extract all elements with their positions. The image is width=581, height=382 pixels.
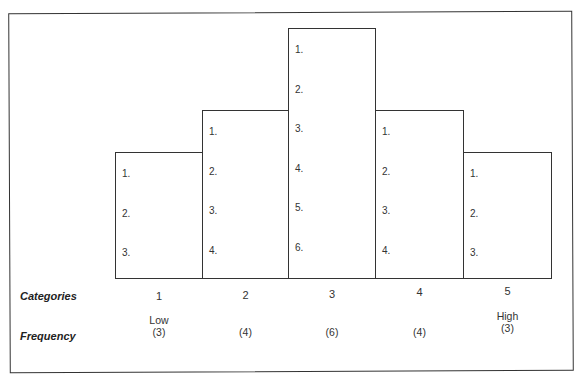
frequency-label: (4) <box>216 326 276 338</box>
category-label: 5 <box>478 285 538 297</box>
bar-category-3: 1.2.3.4.5.6. <box>288 28 376 279</box>
bar-item-label: 2. <box>209 166 217 177</box>
frequency-value: (3) <box>478 322 538 334</box>
category-label: 1 <box>129 290 189 302</box>
frequency-row-label: Frequency <box>20 330 76 342</box>
categories-row-label: Categories <box>20 290 77 302</box>
bar-item-label: 2. <box>295 84 303 95</box>
frequency-value: (4) <box>216 326 276 338</box>
frequency-value: (6) <box>302 326 362 338</box>
bar-item-label: 1. <box>470 168 478 179</box>
bar-item-label: 1. <box>295 44 303 55</box>
bar-category-4: 1.2.3.4. <box>375 110 464 279</box>
bar-item-label: 4. <box>382 245 390 256</box>
bar-item-label: 3. <box>295 123 303 134</box>
bar-item-label: 2. <box>122 208 130 219</box>
frequency-label: (6) <box>302 326 362 338</box>
bar-item-label: 1. <box>122 168 130 179</box>
bar-item-label: 4. <box>209 245 217 256</box>
category-label: 3 <box>302 288 362 300</box>
bar-category-1: 1.2.3. <box>115 152 203 279</box>
bar-item-label: 3. <box>470 247 478 258</box>
bar-item-label: 2. <box>382 166 390 177</box>
category-label: 2 <box>216 289 276 301</box>
bar-item-label: 3. <box>122 247 130 258</box>
bar-item-label: 6. <box>295 242 303 253</box>
bar-category-2: 1.2.3.4. <box>202 110 289 279</box>
category-label: 4 <box>390 286 450 298</box>
bar-item-label: 3. <box>382 205 390 216</box>
bar-item-label: 5. <box>295 202 303 213</box>
bar-item-label: 2. <box>470 208 478 219</box>
bar-item-label: 1. <box>209 126 217 137</box>
frequency-label: (4) <box>390 326 450 338</box>
frequency-label: Low(3) <box>129 314 189 338</box>
frequency-label: High(3) <box>478 310 538 334</box>
bar-item-label: 1. <box>382 126 390 137</box>
bar-item-label: 3. <box>209 205 217 216</box>
high-extreme-label: High <box>478 310 538 322</box>
bar-item-label: 4. <box>295 163 303 174</box>
low-extreme-label: Low <box>129 314 189 326</box>
frequency-value: (3) <box>129 326 189 338</box>
bar-category-5: 1.2.3. <box>463 152 552 279</box>
frequency-value: (4) <box>390 326 450 338</box>
